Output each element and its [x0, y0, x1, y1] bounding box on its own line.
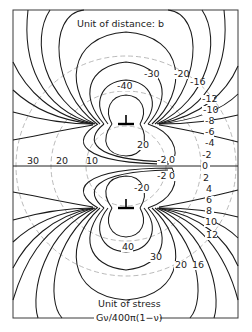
label-upper-m12: -12 [202, 93, 218, 104]
label-upper-m10: -10 [203, 104, 219, 115]
contour-lower-p50 [108, 208, 143, 237]
label-lower-zero-inner: 0 [169, 170, 175, 181]
label-middle-zero: 0 [202, 160, 208, 171]
label-upper-m30: -30 [144, 68, 160, 79]
label-upper-m20: -20 [174, 68, 190, 79]
upper-contour-labels: -40 -30 -20 -16 -12 -10 -8 -6 -4 -2 20 -… [117, 68, 219, 165]
label-lower-p20: 20 [175, 259, 187, 270]
label-lower-m2-inner: -2 [157, 170, 166, 181]
label-lower-p8: 8 [206, 205, 212, 216]
label-upper-m6: -6 [205, 126, 214, 137]
label-upper-m8: -8 [205, 115, 214, 126]
label-lower-p40: 40 [122, 241, 134, 252]
axis-label-10: 10 [86, 155, 98, 166]
label-upper-m16: -16 [190, 76, 206, 87]
label-lower-p4: 4 [206, 183, 212, 194]
label-upper-p20: 20 [137, 139, 149, 150]
lower-dislocation-icon [118, 199, 134, 208]
axis-label-30: 30 [27, 155, 39, 166]
axis-label-20: 20 [56, 155, 68, 166]
axis-distance-labels: 30 20 10 0 [27, 155, 210, 171]
label-upper-m2-inner: -2 [157, 154, 166, 165]
label-upper-m40: -40 [117, 80, 133, 91]
label-upper-zero-inner: 0 [169, 154, 175, 165]
dislocation-stress-contour-diagram: Unit of distance: b -40 -30 -20 -16 -12 … [0, 0, 252, 332]
stress-unit-formula: Gν/400π(1−ν) [96, 312, 162, 323]
upper-dislocation-icon [118, 115, 134, 124]
label-lower-p16: 16 [192, 259, 204, 270]
contour-upper-m20 [76, 32, 176, 124]
label-lower-m20: -20 [134, 182, 150, 193]
label-lower-p12: 12 [206, 229, 218, 240]
distance-unit-label: Unit of distance: b [77, 18, 164, 29]
label-lower-p2: 2 [203, 172, 209, 183]
label-lower-p6: 6 [206, 194, 212, 205]
label-upper-m2: -2 [202, 149, 211, 160]
label-lower-p10: 10 [205, 216, 217, 227]
label-upper-m4: -4 [205, 137, 214, 148]
label-lower-p30: 30 [150, 251, 162, 262]
stress-unit-label: Unit of stress [98, 298, 161, 309]
